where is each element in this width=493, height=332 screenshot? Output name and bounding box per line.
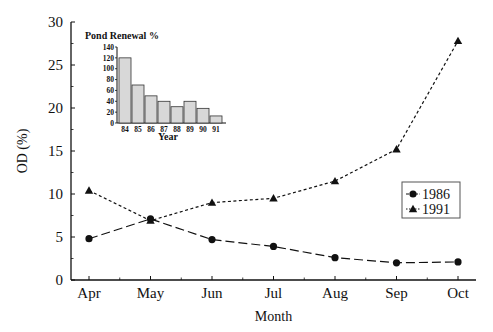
- inset-bar-85: [132, 85, 144, 123]
- y-tick-label: 0: [56, 272, 64, 288]
- circle-marker: [331, 254, 338, 261]
- inset-bar-88: [171, 107, 183, 123]
- x-tick-label: Apr: [77, 285, 100, 301]
- triangle-marker: [392, 145, 400, 152]
- x-tick-label: Jun: [202, 285, 223, 301]
- main-axes: 051015202530AprMayJunJulAugSepOctMonthOD…: [15, 14, 476, 324]
- y-tick-label: 5: [56, 229, 64, 245]
- inset-x-tick-label: 86: [147, 125, 155, 134]
- triangle-marker: [331, 177, 339, 184]
- inset-y-tick-label: 100: [103, 64, 115, 73]
- inset-title: Pond Renewal %: [85, 30, 159, 41]
- circle-marker: [393, 259, 400, 266]
- inset-y-tick-label: 0: [110, 119, 114, 128]
- inset-bar-87: [158, 101, 170, 123]
- inset-bar-90: [197, 108, 209, 123]
- inset-x-tick-label: 89: [186, 125, 194, 134]
- inset-y-tick-label: 80: [107, 75, 115, 84]
- inset-x-tick-label: 91: [212, 125, 220, 134]
- inset-y-tick-label: 120: [103, 54, 115, 63]
- inset-x-tick-label: 90: [199, 125, 207, 134]
- y-tick-label: 25: [48, 57, 63, 73]
- circle-marker: [85, 235, 92, 242]
- inset-x-tick-label: 84: [121, 125, 129, 134]
- y-tick-label: 10: [48, 186, 63, 202]
- circle-marker: [454, 258, 461, 265]
- x-tick-label: Sep: [385, 285, 408, 301]
- triangle-marker: [454, 37, 462, 44]
- chart: 051015202530AprMayJunJulAugSepOctMonthOD…: [0, 0, 493, 332]
- inset-bar-86: [145, 96, 157, 123]
- circle-marker: [270, 243, 277, 250]
- circle-marker: [409, 190, 416, 197]
- inset-y-tick-label: 20: [107, 108, 115, 117]
- inset-bar-84: [119, 58, 131, 123]
- inset-bar-89: [184, 101, 196, 123]
- triangle-marker: [85, 186, 93, 193]
- y-tick-label: 30: [48, 14, 63, 30]
- inset-y-tick-label: 60: [107, 86, 115, 95]
- x-tick-label: Aug: [322, 285, 348, 301]
- legend-label-1991: 1991: [422, 202, 450, 217]
- y-tick-label: 15: [48, 143, 63, 159]
- legend-label-1986: 1986: [422, 187, 450, 202]
- x-tick-label: Jul: [265, 285, 283, 301]
- triangle-marker: [269, 194, 277, 201]
- series-line-1986: [89, 219, 458, 263]
- inset-y-tick-label: 140: [103, 43, 115, 52]
- main-series: [85, 37, 462, 267]
- inset-bar-91: [210, 116, 222, 123]
- legend: 19861991: [402, 182, 460, 218]
- x-tick-label: May: [137, 285, 165, 301]
- inset-bar-chart: Pond Renewal %02040608010012014084858687…: [85, 30, 226, 142]
- x-tick-label: Oct: [447, 285, 469, 301]
- x-axis-title: Month: [255, 309, 292, 324]
- y-axis-title: OD (%): [15, 128, 31, 173]
- y-tick-label: 20: [48, 100, 63, 116]
- inset-y-tick-label: 40: [107, 97, 115, 106]
- triangle-marker: [208, 198, 216, 205]
- inset-x-tick-label: 85: [134, 125, 142, 134]
- circle-marker: [208, 236, 215, 243]
- inset-x-axis-title: Year: [158, 131, 179, 142]
